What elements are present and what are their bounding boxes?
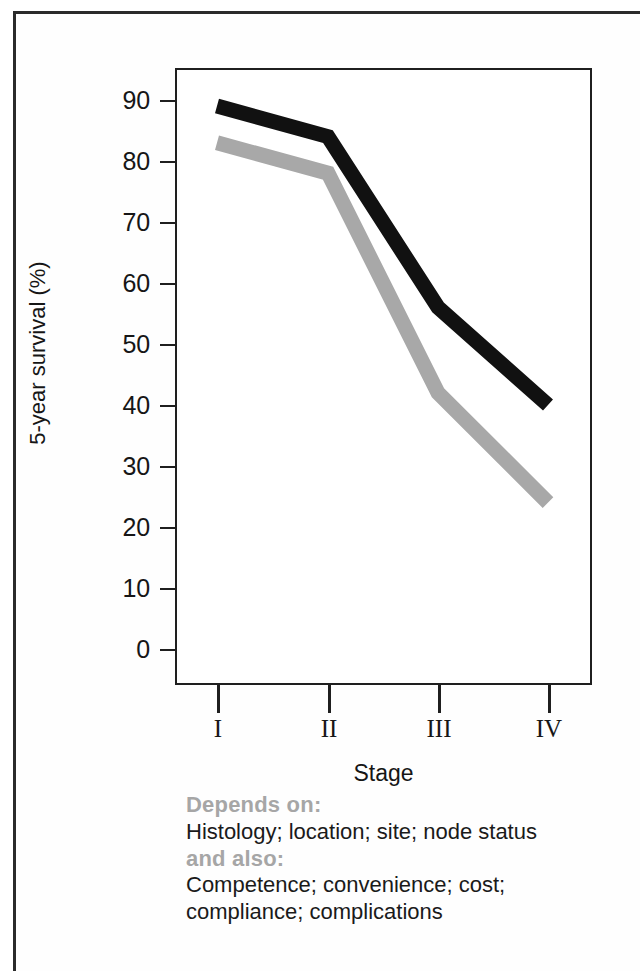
x-tick-label-III: III [409,716,469,741]
y-axis-tick-labels: 90 80 70 60 50 40 30 20 10 0 [88,0,150,700]
survival-by-stage-figure: 90 80 70 60 50 40 30 20 10 0 5-year surv… [0,0,644,974]
annotation-heading-and-also: and also: [186,846,606,873]
x-tick-mark-III [438,685,441,713]
y-tick-mark-0 [160,649,175,651]
y-tick-label-0: 0 [88,637,150,662]
annotation-text-considerations-line2: compliance; complications [186,899,606,926]
y-tick-label-50: 50 [88,332,150,357]
y-tick-label-10: 10 [88,576,150,601]
y-tick-label-40: 40 [88,393,150,418]
y-tick-mark-10 [160,588,175,590]
y-tick-mark-30 [160,466,175,468]
x-tick-mark-IV [548,685,551,713]
y-tick-mark-40 [160,405,175,407]
annotation-block: Depends on: Histology; location; site; n… [186,792,606,926]
y-tick-label-20: 20 [88,515,150,540]
y-tick-mark-90 [160,100,175,102]
y-tick-mark-80 [160,161,175,163]
y-tick-label-30: 30 [88,454,150,479]
x-tick-label-IV: IV [519,716,579,741]
annotation-text-considerations-line1: Competence; convenience; cost; [186,872,606,899]
y-tick-label-70: 70 [88,210,150,235]
y-tick-label-90: 90 [88,88,150,113]
series-line-lower [217,143,548,503]
y-axis-title: 5-year survival (%) [25,253,51,453]
plot-series-layer [175,68,592,685]
y-tick-label-60: 60 [88,271,150,296]
x-tick-label-II: II [299,716,359,741]
x-tick-label-I: I [188,716,248,741]
y-tick-label-80: 80 [88,149,150,174]
y-tick-mark-70 [160,222,175,224]
y-tick-mark-50 [160,344,175,346]
x-tick-mark-I [217,685,220,713]
annotation-heading-depends-on: Depends on: [186,792,606,819]
x-axis-title: Stage [175,760,592,787]
y-tick-mark-60 [160,283,175,285]
y-tick-mark-20 [160,527,175,529]
x-tick-mark-II [328,685,331,713]
annotation-text-factors: Histology; location; site; node status [186,819,606,846]
